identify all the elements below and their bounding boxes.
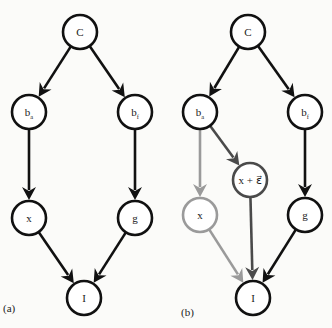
edge-a-ba-to-x <box>22 129 36 200</box>
edge-b-C-to-ba <box>209 47 239 97</box>
node-a-bf: bf <box>118 95 152 129</box>
edge-a-bf-to-g <box>128 129 142 200</box>
node-label: g <box>302 209 308 221</box>
panel-label-b: (b) <box>181 306 194 319</box>
node-subscript: a <box>30 113 33 120</box>
node-a-I: I <box>67 281 101 315</box>
node-a-C: C <box>63 15 97 49</box>
node-b-I: I <box>236 281 270 315</box>
arrowhead-icon <box>61 268 74 283</box>
node-a-x: x <box>12 201 46 235</box>
node-b-g: g <box>288 198 322 232</box>
edge-line <box>209 229 238 274</box>
edge-b-ba-to-x <box>193 129 207 197</box>
node-label: x + ε⃗ <box>238 174 261 186</box>
node-b-xe: x + ε⃗ <box>233 163 267 197</box>
arrowhead-icon <box>226 151 239 166</box>
node-label: x <box>26 212 32 224</box>
edge-b-x-to-I <box>209 229 243 283</box>
edge-line <box>214 47 239 88</box>
edge-b-g-to-I <box>263 229 296 282</box>
edge-line <box>44 46 71 88</box>
edge-a-C-to-ba <box>39 46 71 96</box>
node-label: g <box>132 212 138 224</box>
edges-layer <box>22 46 312 283</box>
edge-line <box>90 46 120 89</box>
node-label: C <box>76 26 83 38</box>
node-a-ba: ba <box>12 95 46 129</box>
node-label: x <box>197 209 203 221</box>
edge-b-xe-to-I <box>245 197 259 280</box>
edge-b-C-to-bf <box>258 46 295 97</box>
node-label: I <box>251 292 255 304</box>
node-b-x: x <box>183 198 217 232</box>
nodes-layer: CbabfxgICbabfxx + ε⃗gI <box>12 15 322 315</box>
edge-a-g-to-I <box>94 232 126 282</box>
edge-line <box>250 197 252 270</box>
bayesian-network-diagram: CbabfxgICbabfxx + ε⃗gI (a) (b) <box>0 0 332 328</box>
node-label: I <box>82 292 86 304</box>
node-label: C <box>244 26 251 38</box>
node-b-ba: ba <box>183 95 217 129</box>
node-subscript: a <box>201 113 204 120</box>
node-a-g: g <box>118 201 152 235</box>
edge-line <box>99 232 126 274</box>
arrowhead-icon <box>230 268 243 283</box>
edge-a-C-to-bf <box>90 46 125 97</box>
edge-b-ba-to-xe <box>210 126 239 166</box>
panel-label-a: (a) <box>3 302 16 315</box>
edge-line <box>258 46 289 89</box>
edge-a-x-to-I <box>39 232 74 283</box>
edge-line <box>39 232 69 275</box>
edge-b-bf-to-g <box>298 129 312 197</box>
arrowhead-icon <box>112 82 125 97</box>
edge-line <box>268 229 296 274</box>
edge-line <box>210 126 233 158</box>
node-b-C: C <box>231 15 265 49</box>
node-b-bf: bf <box>288 95 322 129</box>
arrowhead-icon <box>281 83 294 98</box>
